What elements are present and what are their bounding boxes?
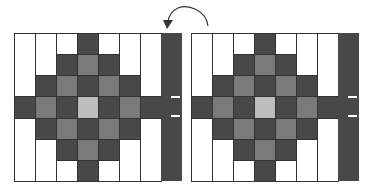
white-bar [233,160,255,182]
mosaic-cell [77,160,99,182]
white-bar [191,118,213,182]
mosaic-cell [254,75,276,97]
tick-mark [171,96,180,98]
mosaic-cell [140,96,162,118]
mosaic-cell [77,75,99,97]
mosaic-cell [56,118,78,140]
white-bar [317,118,339,182]
dark-strip [161,33,182,181]
mosaic-cell [254,139,276,161]
mosaic-cell [56,54,78,76]
mosaic-cell [275,54,297,76]
white-bar [296,139,318,182]
mosaic-cell [233,118,255,140]
curved-arrow-icon [0,0,372,40]
white-bar [98,160,120,182]
mosaic-cell [77,118,99,140]
mosaic-cell [212,96,234,118]
white-bar [14,33,36,97]
mosaic-cell [317,96,339,118]
mosaic-cell [119,96,141,118]
white-bar [140,118,162,182]
mosaic-cell [191,96,213,118]
mosaic-cell [233,54,255,76]
mosaic-cell [56,139,78,161]
white-bar [191,33,213,97]
mosaic-cell [77,139,99,161]
mosaic-cell [56,75,78,97]
mosaic-cell [119,75,141,97]
mosaic-cell [254,96,276,118]
mosaic-cell [296,75,318,97]
tick-mark [171,115,180,117]
mosaic-cell [254,54,276,76]
white-bar [140,33,162,97]
mosaic-cell [98,75,120,97]
white-bar [14,118,36,182]
right-mosaic-grid [191,33,359,181]
mosaic-cell [98,118,120,140]
mosaic-cell [275,118,297,140]
mosaic-cell [212,118,234,140]
mosaic-cell [212,75,234,97]
mosaic-cell [119,118,141,140]
mosaic-cell [35,96,57,118]
white-bar [317,33,339,97]
mosaic-cell [254,118,276,140]
mosaic-cell [233,96,255,118]
mosaic-cell [296,118,318,140]
mosaic-cell [275,75,297,97]
white-bar [119,139,141,182]
dark-strip [338,33,359,181]
white-bar [56,160,78,182]
mosaic-cell [14,96,36,118]
tick-mark [348,115,357,117]
mosaic-cell [77,96,99,118]
mosaic-cell [296,96,318,118]
mosaic-cell [56,96,78,118]
white-bar [275,160,297,182]
mosaic-cell [98,139,120,161]
mosaic-cell [98,96,120,118]
mosaic-cell [275,139,297,161]
white-bar [212,139,234,182]
mosaic-cell [98,54,120,76]
mosaic-cell [254,160,276,182]
mosaic-cell [233,139,255,161]
mosaic-cell [77,54,99,76]
mosaic-cell [35,75,57,97]
mosaic-cell [35,118,57,140]
tick-mark [348,96,357,98]
mosaic-cell [233,75,255,97]
left-mosaic-grid [14,33,182,181]
mosaic-cell [275,96,297,118]
white-bar [35,139,57,182]
